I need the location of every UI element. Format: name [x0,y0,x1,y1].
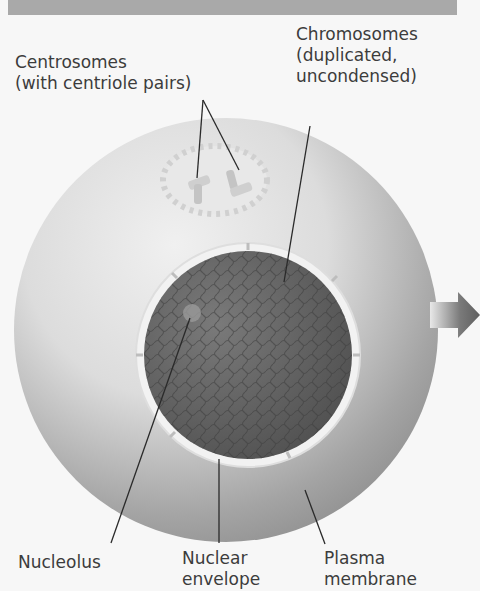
label-nucleolus: Nucleolus [18,552,101,573]
label-nuclear-envelope: Nuclear envelope [182,548,260,590]
nucleolus [183,304,201,322]
label-plasma-membrane: Plasma membrane [324,548,417,590]
label-chromosomes: Chromosomes (duplicated, uncondensed) [296,24,418,87]
label-centrosomes: Centrosomes (with centriole pairs) [15,52,191,94]
centrosomes-icon [163,146,267,214]
